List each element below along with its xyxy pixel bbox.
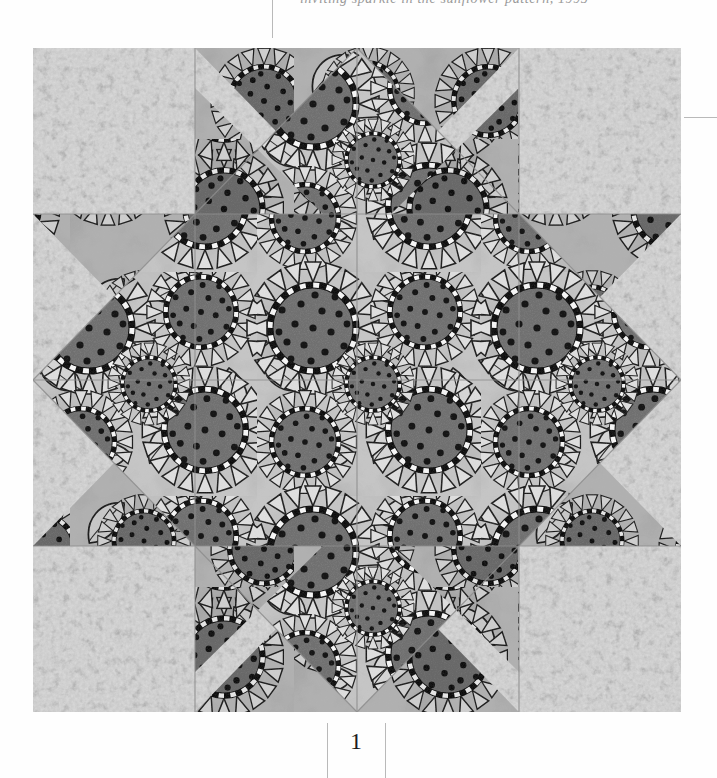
running-head-strip: inviting sparkle in the sunflower patter… — [0, 0, 717, 14]
page-number: 1 — [327, 728, 385, 755]
quilt-block-photo — [33, 48, 681, 712]
quilt-block-svg — [33, 48, 681, 712]
registration-rule-top — [272, 0, 273, 38]
scan-grain-overlay — [33, 48, 681, 712]
folio-rule-right — [385, 723, 386, 778]
scanned-page: inviting sparkle in the sunflower patter… — [0, 0, 717, 778]
running-head-text: inviting sparkle in the sunflower patter… — [300, 0, 588, 7]
registration-rule-right — [684, 117, 717, 118]
